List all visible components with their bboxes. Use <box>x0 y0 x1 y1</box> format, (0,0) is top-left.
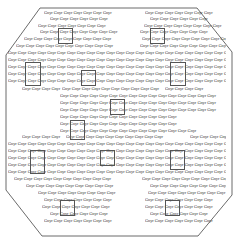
text-row: GnyrGnyrGnyrGnyrGnyrGnyrGnyrGnyr <box>38 190 117 195</box>
word: Gnyr <box>8 148 17 153</box>
word: Gnyr <box>181 36 190 41</box>
word: Gnyr <box>70 114 79 119</box>
word: Gnyr <box>103 197 112 202</box>
text-row: GnyrGnyrGnyrGnyrGnyrGnyrGnyrGnyrGnyrGnyr… <box>60 93 217 98</box>
word: Gnyr <box>126 155 135 160</box>
word: Gnyr <box>179 211 188 216</box>
word: Gnyr <box>67 78 76 83</box>
word: Gnyr <box>185 155 194 160</box>
word: Gnyr <box>16 43 25 48</box>
word: Gnyr <box>97 23 106 28</box>
word: Gnyr <box>89 16 98 21</box>
word: Gnyr <box>116 162 125 167</box>
word: Gnyr <box>141 86 150 91</box>
word: Gnyr <box>136 50 145 55</box>
word: Gnyr <box>184 204 193 209</box>
word: Gnyr <box>67 57 76 62</box>
word: Gnyr <box>75 43 84 48</box>
text-row: GnyrGnyrGnyrGnyrGnyrGnyrGnyrGnyrGnyrGnyr… <box>8 50 226 55</box>
word: Gnyr <box>79 211 88 216</box>
word: Gnyr <box>194 162 203 167</box>
word: Gnyr <box>175 86 184 91</box>
word: Gnyr <box>145 218 154 223</box>
word: Gnyr <box>36 43 45 48</box>
word: Gnyr <box>28 50 37 55</box>
word: Gnyr <box>142 176 151 181</box>
word: Gnyr <box>80 114 89 119</box>
word: Gnyr <box>204 141 213 146</box>
word: Gnyr <box>70 16 79 21</box>
word: Gnyr <box>8 169 17 174</box>
word: Gnyr <box>116 78 125 83</box>
word: Gnyr <box>188 128 197 133</box>
word: Gnyr <box>214 78 223 83</box>
word: Gnyr <box>99 16 108 21</box>
word: Gnyr <box>89 100 98 105</box>
word: Gnyr <box>197 93 206 98</box>
word: Gnyr <box>85 43 94 48</box>
text-row: GnyrGnyrGnyrGnyrGnyrGnyrGnyrGnyrGnyrGnyr <box>142 176 226 181</box>
word: Gnyr <box>214 57 223 62</box>
word: Gnyr <box>99 29 108 34</box>
highlight-box <box>170 62 186 86</box>
word: Gnyr <box>174 218 183 223</box>
word: Gnyr <box>101 86 110 91</box>
word: Gnyr <box>119 121 128 126</box>
text-row: GnyrGnyrGnyrGnyrGnyrGnyrGnyr <box>44 218 113 223</box>
word: Gnyr <box>67 169 76 174</box>
word: Gnyr <box>34 36 43 41</box>
word: Gnyr <box>136 148 145 153</box>
word: Gnyr <box>155 204 164 209</box>
word: Gnyr <box>87 155 96 160</box>
word: Gnyr <box>101 204 110 209</box>
word: Gnyr <box>63 176 72 181</box>
word: Gnyr <box>136 78 145 83</box>
word: Gnyr <box>103 10 112 15</box>
word: Gnyr <box>89 107 98 112</box>
word: Gnyr <box>194 169 203 174</box>
word: Gnyr <box>77 169 86 174</box>
word: Gnyr <box>155 57 164 62</box>
word: Gnyr <box>185 86 194 91</box>
word: Gnyr <box>194 10 203 15</box>
word: Gnyr <box>175 141 184 146</box>
word: Gnyr <box>155 71 164 76</box>
word: Gnyr <box>67 155 76 160</box>
word: Gnyr <box>155 141 164 146</box>
highlight-box <box>150 28 165 44</box>
word: Gnyr <box>60 107 69 112</box>
word: Gnyr <box>126 148 135 153</box>
word: Gnyr <box>77 23 86 28</box>
text-row: GnyrGnyrGnyrGnyrGnyrGnyr <box>50 211 109 216</box>
word: Gnyr <box>214 64 223 69</box>
word: Gnyr <box>221 36 227 41</box>
text-row: GnyrGnyrGnyrGnyrGnyrGnyrGnyrGnyr <box>40 29 119 34</box>
word: Gnyr <box>51 134 60 139</box>
word: Gnyr <box>126 78 135 83</box>
word: Gnyr <box>207 190 216 195</box>
word: Gnyr <box>18 148 27 153</box>
word: Gnyr <box>189 16 198 21</box>
word: Gnyr <box>207 93 216 98</box>
word: Gnyr <box>204 64 213 69</box>
text-row: GnyrGnyrGnyrGnyr <box>22 134 61 139</box>
word: Gnyr <box>67 141 76 146</box>
word: Gnyr <box>168 114 177 119</box>
word: Gnyr <box>93 36 102 41</box>
word: Gnyr <box>77 162 86 167</box>
word: Gnyr <box>219 134 226 139</box>
word: Gnyr <box>214 71 223 76</box>
word: Gnyr <box>47 155 56 160</box>
word: Gnyr <box>139 100 148 105</box>
word: Gnyr <box>194 50 203 55</box>
word: Gnyr <box>224 141 226 146</box>
word: Gnyr <box>150 86 159 91</box>
word: Gnyr <box>121 86 130 91</box>
text-row: GnyrGnyrGnyrGnyrGnyrGnyrGnyrGnyrGnyrGnyr <box>62 86 160 91</box>
word: Gnyr <box>83 218 92 223</box>
text-row: GnyrGnyrGnyrGnyrGnyrGnyr <box>150 16 209 21</box>
word: Gnyr <box>83 10 92 15</box>
word: Gnyr <box>89 114 98 119</box>
word: Gnyr <box>106 71 115 76</box>
word: Gnyr <box>139 121 148 126</box>
